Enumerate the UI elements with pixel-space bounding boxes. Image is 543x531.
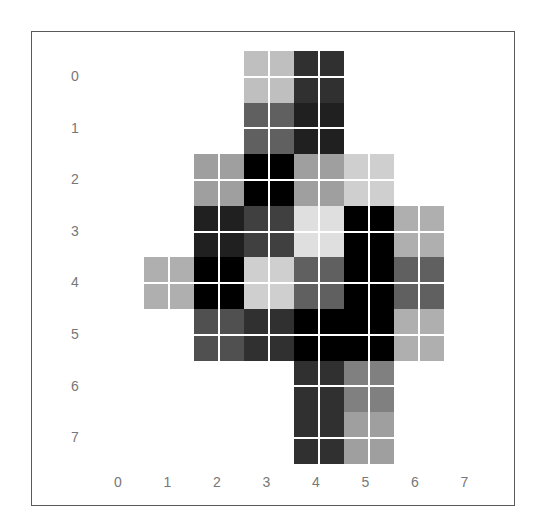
heatmap-cell xyxy=(194,103,244,155)
heatmap-cell xyxy=(144,154,194,206)
x-tick-label: 0 xyxy=(108,474,128,490)
heatmap-cell xyxy=(94,361,144,413)
heatmap-cell xyxy=(344,206,394,258)
heatmap-cell xyxy=(294,361,344,413)
y-tick-label: 6 xyxy=(65,378,85,394)
x-tick-label: 5 xyxy=(356,474,376,490)
heatmap-grid xyxy=(94,51,494,464)
heatmap-cell xyxy=(244,154,294,206)
heatmap-cell xyxy=(144,257,194,309)
heatmap-cell xyxy=(144,206,194,258)
heatmap-cell xyxy=(244,257,294,309)
heatmap-cell xyxy=(444,103,494,155)
y-tick-label: 3 xyxy=(65,223,85,239)
heatmap-cell xyxy=(144,412,194,464)
heatmap-cell xyxy=(344,309,394,361)
heatmap-cell xyxy=(94,51,144,103)
heatmap-cell xyxy=(394,206,444,258)
heatmap-cell xyxy=(344,103,394,155)
heatmap-cell xyxy=(394,412,444,464)
x-tick-label: 6 xyxy=(405,474,425,490)
heatmap-cell xyxy=(94,309,144,361)
heatmap-cell xyxy=(144,51,194,103)
heatmap-cell xyxy=(244,412,294,464)
heatmap-cell xyxy=(444,361,494,413)
heatmap-cell xyxy=(194,412,244,464)
heatmap-cell xyxy=(244,206,294,258)
heatmap-cell xyxy=(194,257,244,309)
heatmap-cell xyxy=(344,51,394,103)
heatmap-cell xyxy=(244,103,294,155)
heatmap-cell xyxy=(294,412,344,464)
heatmap-cell xyxy=(444,412,494,464)
heatmap-cell xyxy=(444,51,494,103)
y-tick-label: 1 xyxy=(65,120,85,136)
heatmap-cell xyxy=(344,412,394,464)
heatmap-cell xyxy=(144,361,194,413)
heatmap-cell xyxy=(194,51,244,103)
y-tick-label: 2 xyxy=(65,171,85,187)
heatmap-cell xyxy=(144,309,194,361)
heatmap-cell xyxy=(144,103,194,155)
y-tick-label: 0 xyxy=(65,68,85,84)
heatmap-cell xyxy=(394,154,444,206)
heatmap-cell xyxy=(194,154,244,206)
x-tick-label: 4 xyxy=(306,474,326,490)
heatmap-cell xyxy=(244,309,294,361)
heatmap-cell xyxy=(244,51,294,103)
heatmap-cell xyxy=(394,103,444,155)
heatmap-cell xyxy=(444,206,494,258)
heatmap-cell xyxy=(394,51,444,103)
x-tick-label: 3 xyxy=(257,474,277,490)
heatmap-cell xyxy=(94,103,144,155)
heatmap-cell xyxy=(294,154,344,206)
heatmap-cell xyxy=(94,154,144,206)
heatmap-cell xyxy=(194,206,244,258)
heatmap-cell xyxy=(394,257,444,309)
heatmap-cell xyxy=(344,361,394,413)
heatmap-cell xyxy=(344,257,394,309)
heatmap-cell xyxy=(294,206,344,258)
x-tick-label: 2 xyxy=(207,474,227,490)
y-tick-label: 5 xyxy=(65,326,85,342)
heatmap-cell xyxy=(294,257,344,309)
y-tick-label: 7 xyxy=(65,429,85,445)
heatmap-cell xyxy=(244,361,294,413)
x-tick-label: 7 xyxy=(455,474,475,490)
heatmap-cell xyxy=(444,257,494,309)
x-tick-label: 1 xyxy=(158,474,178,490)
heatmap-cell xyxy=(444,154,494,206)
heatmap-cell xyxy=(194,309,244,361)
y-tick-label: 4 xyxy=(65,274,85,290)
heatmap-cell xyxy=(94,412,144,464)
heatmap-cell xyxy=(94,206,144,258)
heatmap-cell xyxy=(94,257,144,309)
heatmap-cell xyxy=(294,309,344,361)
heatmap-cell xyxy=(394,361,444,413)
heatmap-cell xyxy=(294,51,344,103)
heatmap-cell xyxy=(444,309,494,361)
heatmap-cell xyxy=(194,361,244,413)
heatmap-cell xyxy=(294,103,344,155)
heatmap-cell xyxy=(344,154,394,206)
heatmap-cell xyxy=(394,309,444,361)
